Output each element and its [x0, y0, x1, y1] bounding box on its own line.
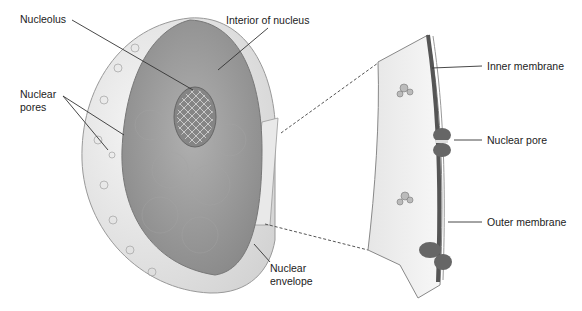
label-nuclear-envelope-line2: envelope	[270, 275, 313, 288]
label-nuclear-envelope-line1: Nuclear	[270, 262, 313, 275]
label-outer-membrane: Outer membrane	[487, 216, 566, 229]
label-nuclear-pores-line1: Nuclear	[20, 88, 56, 101]
zoom-line-bottom	[265, 224, 368, 250]
label-nuclear-envelope: Nuclear envelope	[270, 262, 313, 288]
label-nuclear-pore: Nuclear pore	[487, 134, 547, 147]
envelope-section	[368, 35, 452, 298]
label-nuclear-pores: Nuclear pores	[20, 88, 56, 114]
label-nuclear-pores-line2: pores	[20, 101, 56, 114]
nucleolus	[174, 87, 216, 147]
zoom-line-top	[281, 63, 378, 133]
label-inner-membrane: Inner membrane	[487, 60, 564, 73]
label-interior-of-nucleus: Interior of nucleus	[226, 14, 309, 27]
label-nucleolus: Nucleolus	[20, 13, 66, 26]
